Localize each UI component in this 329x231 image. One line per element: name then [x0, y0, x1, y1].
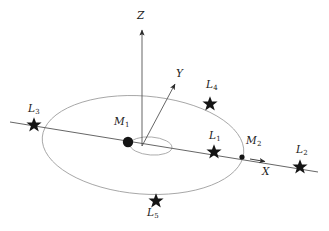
x-axis-label: X [262, 166, 269, 177]
lagrange-star-L3 [26, 117, 41, 131]
diagram-canvas [0, 0, 329, 231]
z-axis-label: Z [137, 10, 144, 21]
lagrange-points-diagram: Z Y X M1 M2 L1 L2 L3 L4 L5 [0, 0, 329, 231]
lagrange-label-L1: L1 [209, 130, 220, 141]
y-axis-line [142, 84, 175, 146]
lagrange-label-L4: L4 [206, 79, 217, 90]
secondary-body-label: M2 [246, 135, 261, 146]
primary-orbit-ellipse [129, 135, 172, 156]
lagrange-star-L2 [292, 159, 307, 173]
lagrange-label-L2: L2 [296, 144, 307, 155]
lagrange-label-L3: L3 [28, 103, 39, 114]
primary-body-marker [123, 137, 133, 147]
secondary-body-marker [239, 154, 244, 159]
y-axis-label: Y [176, 68, 183, 79]
primary-body-label: M1 [114, 116, 129, 127]
lagrange-label-L5: L5 [147, 207, 158, 218]
lagrange-star-L4 [202, 96, 217, 110]
